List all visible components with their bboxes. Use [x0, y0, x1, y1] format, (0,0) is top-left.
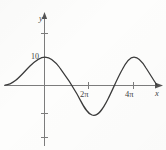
x-axis-label: x — [155, 89, 159, 98]
y-tick-label-10: 10 — [31, 53, 39, 61]
x-tick-label-4pi: 4π — [125, 90, 134, 99]
sine-curve-figure: y x 10 2π 4π — [0, 0, 166, 150]
plot-canvas — [0, 0, 166, 150]
x-tick-label-2pi: 2π — [80, 90, 89, 99]
sine-curve — [5, 57, 157, 115]
y-axis-label: y — [39, 14, 43, 23]
